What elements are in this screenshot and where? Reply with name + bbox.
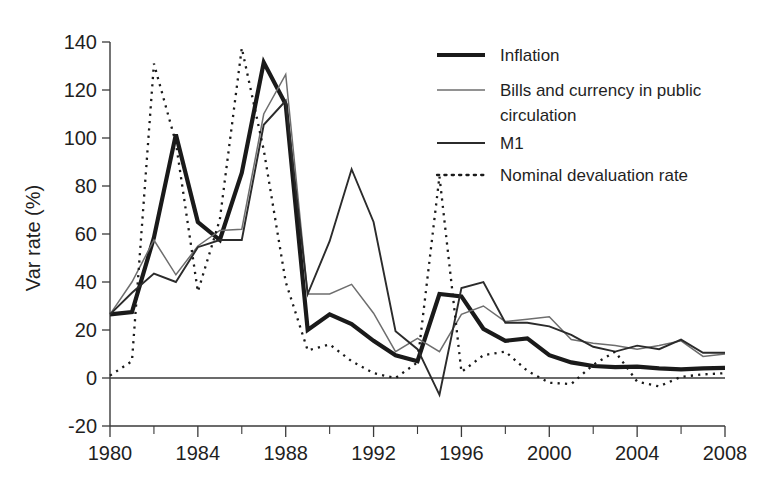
series-line-2: [110, 74, 725, 356]
y-tick-label: 100: [64, 127, 97, 149]
axes: [102, 42, 725, 437]
x-tick-label: 1996: [439, 442, 484, 464]
series-line-3: [110, 101, 725, 395]
y-tick-label: 40: [75, 271, 97, 293]
y-tick-label: 140: [64, 31, 97, 53]
series-line-1: [110, 62, 725, 369]
chart-legend: InflationBills and currency in publiccir…: [437, 46, 702, 185]
y-tick-label: 20: [75, 319, 97, 341]
y-axis-title: Var rate (%): [22, 185, 44, 291]
legend-label-1: Inflation: [500, 46, 560, 65]
y-tick-label: 60: [75, 223, 97, 245]
x-tick-label: 1980: [88, 442, 133, 464]
x-tick-label: 2000: [527, 442, 572, 464]
x-tick-label: 2008: [703, 442, 748, 464]
y-tick-label: 120: [64, 79, 97, 101]
chart-figure: -200204060801001201401980198419881992199…: [0, 0, 779, 503]
legend-label-4: Nominal devaluation rate: [500, 166, 688, 185]
data-series: [110, 48, 725, 395]
x-tick-label: 2004: [615, 442, 660, 464]
legend-label-2: Bills and currency in public: [500, 81, 702, 100]
legend-label-3: M1: [500, 134, 524, 153]
x-tick-label: 1992: [351, 442, 396, 464]
y-tick-label: 80: [75, 175, 97, 197]
legend-label-2-line2: circulation: [500, 106, 577, 125]
x-tick-label: 1988: [263, 442, 308, 464]
line-chart-svg: -200204060801001201401980198419881992199…: [0, 0, 779, 503]
y-tick-label: -20: [68, 415, 97, 437]
y-tick-label: 0: [86, 367, 97, 389]
x-tick-label: 1984: [176, 442, 221, 464]
